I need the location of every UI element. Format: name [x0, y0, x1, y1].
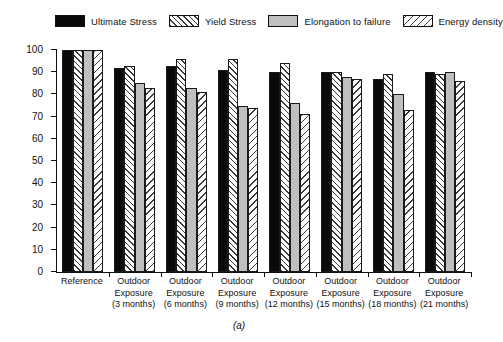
y-tick: 10: [51, 249, 57, 250]
x-axis-label-line: Outdoor: [263, 276, 315, 288]
legend-swatch-hatch-right-icon: [169, 15, 199, 27]
bar: [280, 63, 290, 272]
x-axis-label-line: Outdoor: [211, 276, 263, 288]
bar: [425, 72, 435, 272]
x-axis-label: OutdoorExposure(3 months): [108, 276, 160, 311]
figure-caption: (a): [0, 320, 478, 331]
x-axis-label-line: Reference: [56, 276, 108, 288]
bar: [404, 110, 414, 272]
legend-label: Elongation to failure: [304, 16, 390, 27]
bar: [342, 77, 352, 272]
x-axis-label-line: Outdoor: [418, 276, 470, 288]
x-axis-label-line: Exposure: [367, 288, 419, 300]
y-tick: 20: [51, 227, 57, 228]
chart-legend: Ultimate Stress Yield Stress Elongation …: [55, 13, 475, 29]
x-axis-label: OutdoorExposure(18 months): [367, 276, 419, 311]
bar: [135, 83, 145, 272]
x-axis-label-line: Exposure: [160, 288, 212, 300]
legend-label: Energy density: [439, 16, 503, 27]
y-tick: 40: [51, 182, 57, 183]
bar: [176, 59, 186, 272]
legend-item-elongation-to-failure: Elongation to failure: [268, 15, 390, 27]
x-axis-label: OutdoorExposure(21 months): [418, 276, 470, 311]
bar: [248, 108, 258, 272]
x-axis-label-line: Exposure: [315, 288, 367, 300]
legend-swatch-hatch-left-icon: [403, 15, 433, 27]
y-tick-label: 80: [32, 88, 43, 99]
x-axis-label-line: (15 months): [315, 299, 367, 311]
bar-group: [114, 50, 155, 272]
x-axis-label-line: Outdoor: [160, 276, 212, 288]
y-tick-label: 40: [32, 177, 43, 188]
bar: [300, 114, 310, 272]
x-axis-label-line: Exposure: [263, 288, 315, 300]
bar-group: [425, 50, 466, 272]
bar: [373, 79, 383, 272]
y-tick-label: 70: [32, 111, 43, 122]
y-tick-label: 60: [32, 133, 43, 144]
x-tick: [471, 272, 472, 277]
bar: [93, 50, 103, 272]
y-tick: 30: [51, 204, 57, 205]
legend-item-ultimate-stress: Ultimate Stress: [55, 15, 157, 27]
x-axis-label-line: (21 months): [418, 299, 470, 311]
x-axis-label-line: Outdoor: [367, 276, 419, 288]
bar: [145, 88, 155, 272]
bar: [228, 59, 238, 272]
plot-area: Residual tensile properties values (in %…: [56, 50, 471, 273]
bar: [62, 50, 72, 272]
bar: [73, 50, 83, 272]
x-axis-label: OutdoorExposure(6 months): [160, 276, 212, 311]
legend-item-energy-density: Energy density: [403, 15, 503, 27]
x-axis-label-line: Outdoor: [315, 276, 367, 288]
bar-group: [62, 50, 103, 272]
y-tick: 70: [51, 116, 57, 117]
bar: [383, 74, 393, 272]
bar: [166, 66, 176, 272]
bar-group: [166, 50, 207, 272]
y-tick: 90: [51, 71, 57, 72]
bar: [445, 72, 455, 272]
legend-swatch-solid-icon: [55, 15, 85, 27]
x-axis-label-line: (3 months): [108, 299, 160, 311]
x-axis-label: Reference: [56, 276, 108, 288]
x-axis-label-line: (6 months): [160, 299, 212, 311]
x-axis-label-line: Outdoor: [108, 276, 160, 288]
x-axis-label: OutdoorExposure(15 months): [315, 276, 367, 311]
y-tick-label: 30: [32, 199, 43, 210]
y-tick-label: 0: [37, 266, 43, 277]
bar: [290, 103, 300, 272]
x-axis-label-line: Exposure: [211, 288, 263, 300]
bar: [197, 92, 207, 272]
y-tick: 60: [51, 138, 57, 139]
bar: [269, 72, 279, 272]
bar: [218, 70, 228, 272]
bar: [114, 68, 124, 272]
bar: [186, 88, 196, 272]
x-axis-label-line: (9 months): [211, 299, 263, 311]
y-tick-label: 50: [32, 155, 43, 166]
bar-group: [321, 50, 362, 272]
bar: [83, 50, 93, 272]
x-axis-label-line: Exposure: [108, 288, 160, 300]
legend-label: Yield Stress: [205, 16, 257, 27]
bar: [331, 72, 341, 272]
x-axis-label-line: (12 months): [263, 299, 315, 311]
y-tick-label: 90: [32, 66, 43, 77]
y-tick: 0: [51, 271, 57, 272]
y-tick: 100: [51, 49, 57, 50]
legend-item-yield-stress: Yield Stress: [169, 15, 257, 27]
y-tick: 80: [51, 93, 57, 94]
y-tick-label: 10: [32, 244, 43, 255]
bar-group: [269, 50, 310, 272]
y-tick-label: 20: [32, 222, 43, 233]
bar: [393, 94, 403, 272]
bar-group: [373, 50, 414, 272]
bar: [352, 79, 362, 272]
x-axis-label: OutdoorExposure(12 months): [263, 276, 315, 311]
bar-group: [218, 50, 259, 272]
y-tick-label: 100: [26, 44, 43, 55]
bar: [238, 106, 248, 273]
bar: [455, 81, 465, 272]
